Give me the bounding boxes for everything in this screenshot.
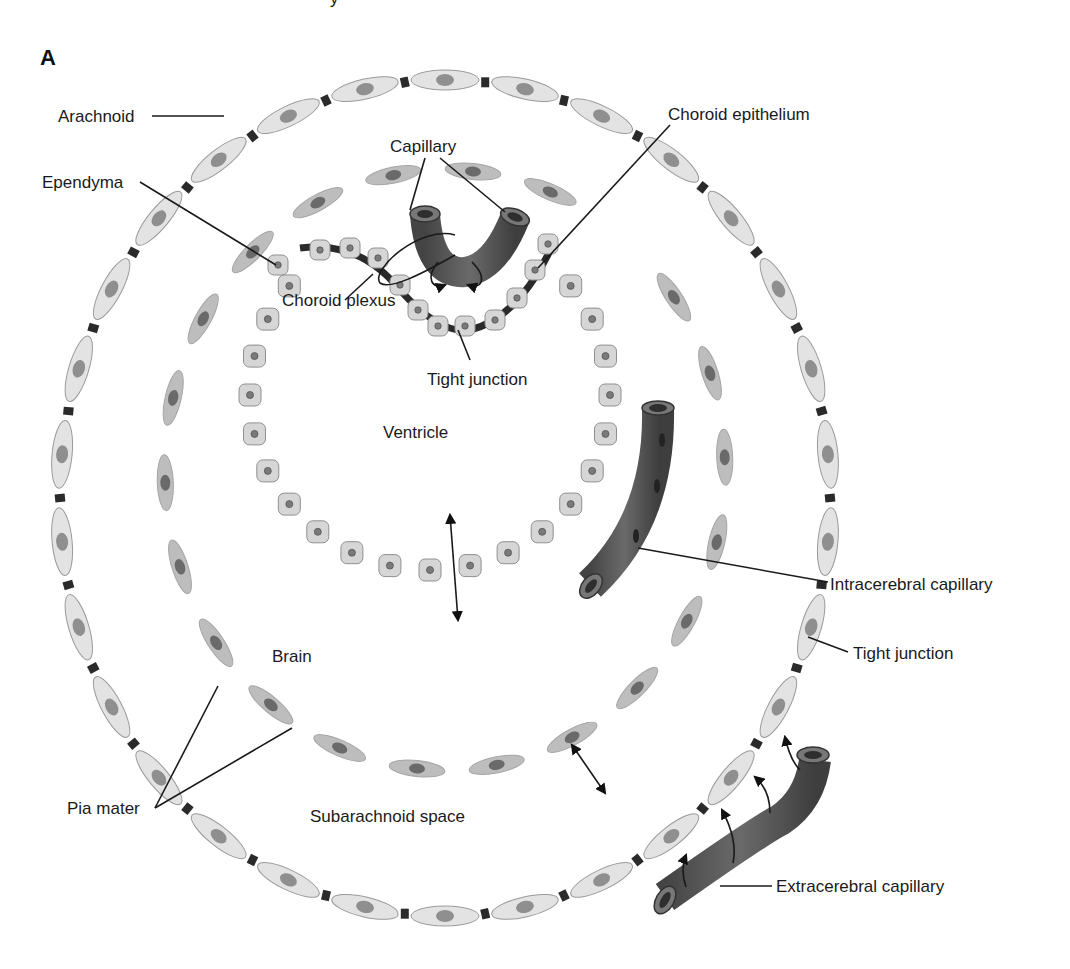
arachnoid-cell — [702, 186, 761, 251]
tight-junction — [247, 854, 259, 866]
tight-junction — [696, 802, 709, 815]
tight-junction — [320, 94, 332, 106]
tight-junction — [181, 181, 194, 194]
ependymal-cell — [341, 542, 363, 564]
ependymal-cell — [379, 555, 401, 577]
pia-cell — [156, 455, 174, 512]
tight-junction — [246, 130, 258, 143]
tight-junction — [816, 406, 828, 417]
panel-label: A — [40, 45, 56, 70]
tight-junction — [127, 737, 140, 750]
ependymal-cell — [560, 493, 582, 515]
tight-junction — [825, 494, 836, 503]
arachnoid-cell — [411, 70, 479, 90]
tight-junction — [87, 662, 100, 674]
arachnoid-cell — [253, 92, 323, 140]
arachnoid-cell — [330, 72, 401, 107]
arachnoid-cell — [815, 419, 841, 489]
arachnoid-cell — [87, 672, 137, 741]
choroid-epithelial-cell — [485, 310, 505, 330]
ependymal-cell — [531, 521, 553, 543]
tight-junction — [790, 322, 803, 334]
label-extracerebral-capillary: Extracerebral capillary — [776, 877, 945, 896]
pia-cell — [666, 593, 707, 650]
pia-cell — [159, 369, 187, 427]
choroid-epithelial-cell — [428, 316, 448, 336]
arachnoid-cell — [186, 807, 252, 865]
label-pia-mater: Pia mater — [67, 799, 140, 818]
arachnoid-cell — [59, 333, 98, 404]
brain-csf-exchange-arrow — [572, 745, 605, 793]
intracerebral-capillary — [575, 401, 674, 603]
tight-junction — [632, 130, 644, 142]
tight-junction — [750, 738, 763, 750]
arachnoid-cell — [702, 745, 761, 810]
pia-cell — [468, 751, 526, 778]
arachnoid-cell — [792, 333, 831, 404]
pia-cell — [364, 162, 422, 189]
ependymal-cell — [257, 308, 279, 330]
arachnoid-cell — [253, 856, 323, 904]
tight-junction — [696, 181, 708, 194]
meninges-diagram: y A — [0, 0, 1070, 969]
arachnoid-cell — [754, 672, 804, 741]
arachnoid-cell — [87, 254, 137, 323]
tight-junction — [127, 246, 140, 258]
tight-junction — [401, 909, 409, 919]
ependymal-cell — [419, 559, 441, 581]
clipped-title-fragment: y — [330, 0, 339, 8]
tight-junction — [321, 890, 331, 902]
tight-junction — [181, 802, 193, 815]
choroid-epithelial-cell — [455, 316, 475, 336]
label-capillary: Capillary — [390, 137, 457, 156]
arachnoid-cell — [792, 592, 831, 663]
pia-cell — [652, 269, 696, 325]
pia-cell — [388, 758, 445, 780]
arachnoid-cell — [490, 890, 561, 925]
pia-cell — [311, 729, 369, 766]
pia-cell — [612, 663, 663, 714]
pia-cell — [716, 429, 734, 486]
tight-junction — [558, 889, 570, 901]
ependymal-cell — [560, 275, 582, 297]
choroid-epithelial-cell — [538, 234, 558, 254]
pia-cell — [444, 161, 501, 183]
ependymal-cell — [581, 460, 603, 482]
pia-cell — [183, 290, 224, 347]
label-choroid-plexus: Choroid plexus — [282, 291, 395, 310]
tight-junction — [631, 854, 643, 867]
tight-junction — [400, 77, 410, 89]
arachnoid-cell — [815, 507, 841, 577]
arachnoid-cell — [49, 419, 75, 489]
ependymal-cell — [239, 384, 261, 406]
label-ventricle: Ventricle — [383, 423, 448, 442]
arachnoid-cell — [186, 131, 252, 189]
ependymal-cell — [599, 384, 621, 406]
tight-junction — [750, 246, 763, 259]
pia-cell — [544, 717, 601, 758]
tight-junction — [559, 95, 569, 107]
label-choroid-epithelium: Choroid epithelium — [668, 105, 810, 124]
arachnoid-cell — [59, 592, 98, 663]
label-tight-junction-outer: Tight junction — [853, 644, 953, 663]
ependymal-cell — [595, 345, 617, 367]
ependymal-cell — [244, 345, 266, 367]
tight-junction — [87, 323, 99, 334]
choroid-capillary — [379, 204, 532, 286]
ependymal-cell — [595, 423, 617, 445]
label-brain: Brain — [272, 647, 312, 666]
label-subarachnoid-space: Subarachnoid space — [310, 807, 465, 826]
pia-cell — [289, 182, 346, 223]
tight-junction — [55, 494, 66, 503]
choroid-epithelial-cell — [268, 255, 288, 275]
arachnoid-cell — [567, 856, 637, 904]
tight-junction — [481, 77, 489, 87]
tight-junction — [63, 407, 74, 416]
arachnoid-cell — [49, 507, 75, 577]
ependymal-cell — [497, 542, 519, 564]
ventricle-brain-exchange-arrow — [450, 515, 458, 620]
ependymal-cell — [581, 308, 603, 330]
arachnoid-cell — [490, 72, 561, 107]
arachnoid-cell — [754, 254, 804, 323]
label-intracerebral-capillary: Intracerebral capillary — [830, 575, 993, 594]
